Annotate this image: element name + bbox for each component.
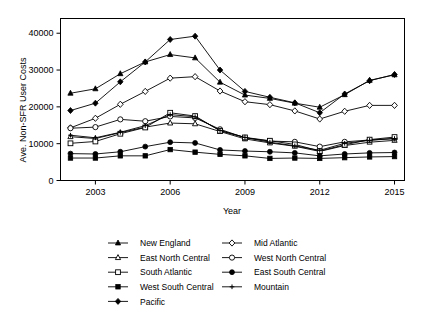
y-tick-label: 20000	[28, 102, 53, 112]
y-tick-label: 30000	[28, 65, 53, 75]
marker-filled-circle	[68, 151, 73, 156]
marker-filled-square	[93, 156, 97, 160]
marker-filled-square	[293, 156, 297, 160]
legend-label: West South Central	[140, 282, 214, 292]
chart-figure: Ave. Non-SFR User Costs Year 01000020000…	[0, 0, 424, 320]
legend-label: South Atlantic	[140, 267, 193, 277]
legend-label: Mountain	[254, 282, 289, 292]
legend-label: New England	[140, 238, 191, 248]
legend-label: East North Central	[140, 253, 210, 263]
y-tick-label: 10000	[28, 139, 53, 149]
marker-open-square	[68, 141, 73, 146]
x-tick-label: 2009	[235, 187, 255, 197]
marker-filled-square	[392, 154, 396, 158]
marker-filled-square	[68, 156, 72, 160]
y-axis-title: Ave. Non-SFR User Costs	[18, 57, 28, 162]
marker-filled-square	[116, 285, 120, 289]
x-tick-label: 2012	[310, 187, 330, 197]
marker-filled-square	[342, 155, 346, 159]
legend-label: East South Central	[254, 267, 325, 277]
marker-filled-circle	[143, 144, 148, 149]
marker-filled-square	[118, 154, 122, 158]
marker-filled-circle	[242, 149, 247, 154]
marker-open-square	[116, 270, 121, 275]
marker-filled-square	[367, 155, 371, 159]
x-tick-label: 2015	[385, 187, 405, 197]
marker-filled-square	[318, 156, 322, 160]
marker-filled-circle	[230, 270, 235, 275]
marker-open-circle	[118, 117, 123, 122]
marker-filled-circle	[218, 147, 223, 152]
marker-filled-circle	[292, 150, 297, 155]
marker-filled-circle	[168, 140, 173, 145]
x-axis-title: Year	[223, 206, 241, 216]
marker-open-circle	[229, 255, 234, 260]
marker-filled-square	[218, 152, 222, 156]
chart-background	[0, 0, 424, 320]
marker-filled-square	[193, 150, 197, 154]
marker-open-circle	[143, 119, 148, 124]
marker-filled-square	[243, 154, 247, 158]
line-chart: Ave. Non-SFR User Costs Year 01000020000…	[0, 0, 424, 320]
y-tick-label: 40000	[28, 28, 53, 38]
marker-filled-square	[268, 156, 272, 160]
marker-filled-circle	[193, 140, 198, 145]
x-tick-label: 2003	[85, 187, 105, 197]
marker-filled-circle	[267, 149, 272, 154]
y-tick-label: 0	[48, 176, 53, 186]
marker-open-circle	[93, 125, 98, 130]
marker-filled-square	[143, 154, 147, 158]
x-tick-label: 2006	[160, 187, 180, 197]
legend-label: Mid Atlantic	[254, 238, 298, 248]
legend-label: Pacific	[140, 297, 166, 307]
marker-filled-square	[168, 147, 172, 151]
marker-open-circle	[68, 126, 73, 131]
legend-label: West North Central	[254, 253, 326, 263]
